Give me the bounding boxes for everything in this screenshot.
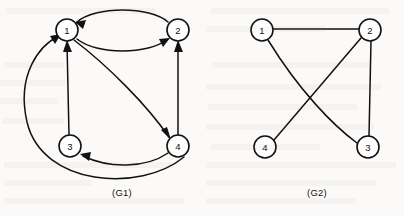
g1-node-4: 4 <box>167 135 189 157</box>
g2-edge-2-4 <box>274 38 361 140</box>
g2-nodes: 1 2 4 3 <box>251 19 381 158</box>
g1-node-4-label: 4 <box>175 141 180 152</box>
g2-edge-2-3 <box>369 41 371 136</box>
g1-edge-1-to-2 <box>77 39 168 51</box>
g2-edge-1-3 <box>268 40 357 143</box>
g2-caption: (G2) <box>307 187 327 198</box>
g1-arrowhead-at-1-from-3 <box>63 40 72 52</box>
g2-node-2-label: 2 <box>367 25 372 36</box>
g2-node-4: 4 <box>254 136 276 158</box>
g1-edge-3-to-1 <box>67 43 69 135</box>
figure-container: 1 2 3 4 (G1) <box>0 0 404 216</box>
g1-edge-2-to-1 <box>77 10 168 22</box>
g1-node-3-label: 3 <box>67 141 72 152</box>
g1-edges <box>24 10 184 179</box>
graph-diagram-svg: 1 2 3 4 (G1) <box>0 0 404 216</box>
g1-edge-4-to-3 <box>83 153 168 165</box>
g2-node-3-label: 3 <box>365 142 370 153</box>
g1-edge-1-to-4 <box>74 40 169 137</box>
g2-node-1-label: 1 <box>259 25 264 36</box>
graph-g2: 1 2 4 3 (G2) <box>251 19 381 198</box>
g1-node-1: 1 <box>56 19 78 41</box>
g1-arrowhead-at-3-from-4 <box>80 152 91 161</box>
g1-node-3: 3 <box>59 135 81 157</box>
g2-node-4-label: 4 <box>262 142 267 153</box>
g1-arrowhead-at-2-from-1 <box>159 38 170 47</box>
graph-g1: 1 2 3 4 (G1) <box>24 10 189 198</box>
g1-arrowhead-at-2-from-4 <box>174 40 183 52</box>
g2-node-1: 1 <box>251 19 273 41</box>
g1-caption: (G1) <box>112 187 132 198</box>
g1-node-2: 2 <box>167 19 189 41</box>
g2-node-2: 2 <box>359 19 381 41</box>
g2-node-3: 3 <box>357 136 379 158</box>
g1-node-2-label: 2 <box>175 25 180 36</box>
g1-node-1-label: 1 <box>64 25 69 36</box>
g2-edges <box>268 29 371 143</box>
